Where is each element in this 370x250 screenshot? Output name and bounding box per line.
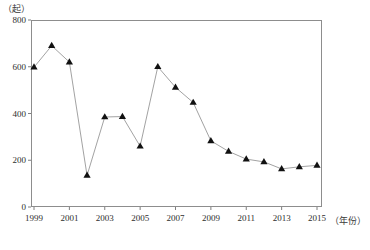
chart-figure: （起） （年份） 0200400600800199920012003200520… bbox=[0, 0, 370, 250]
y-axis-tick-label: 0 bbox=[2, 202, 26, 212]
x-axis-tick-label: 2001 bbox=[52, 213, 86, 223]
x-axis-tick-label: 2013 bbox=[265, 213, 299, 223]
y-axis-tick-label: 800 bbox=[2, 15, 26, 25]
y-axis-tick-label: 200 bbox=[2, 155, 26, 165]
x-axis-tick-label: 2003 bbox=[88, 213, 122, 223]
y-axis-tick-label: 400 bbox=[2, 109, 26, 119]
x-axis-tick-label: 2007 bbox=[159, 213, 193, 223]
x-axis-unit-label: （年份） bbox=[330, 214, 366, 227]
x-axis-tick-label: 2015 bbox=[300, 213, 334, 223]
x-axis-tick-label: 2011 bbox=[229, 213, 263, 223]
plot-area bbox=[31, 20, 322, 207]
x-axis-tick-label: 1999 bbox=[17, 213, 51, 223]
x-axis-tick-label: 2009 bbox=[194, 213, 228, 223]
y-axis-unit-label: （起） bbox=[3, 2, 30, 15]
y-axis-tick-label: 600 bbox=[2, 62, 26, 72]
x-axis-tick-label: 2005 bbox=[123, 213, 157, 223]
